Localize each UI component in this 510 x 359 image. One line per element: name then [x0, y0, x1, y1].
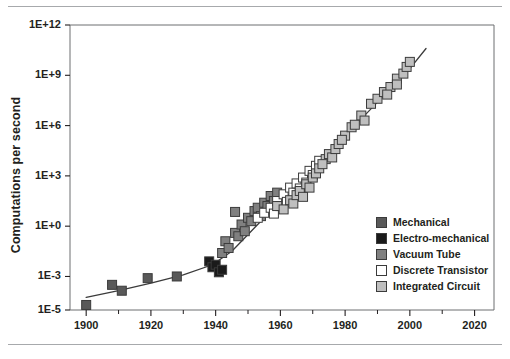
x-tick-label: 1940 — [192, 319, 240, 331]
x-tick-label: 1960 — [256, 319, 304, 331]
data-point-marker — [318, 160, 327, 169]
data-point-marker — [240, 227, 249, 236]
data-point-marker — [328, 153, 337, 162]
x-tick-label: 2000 — [386, 319, 434, 331]
y-tick-label: 1E+6 — [7, 119, 61, 131]
data-point-marker — [218, 265, 227, 274]
data-point-marker — [383, 90, 392, 99]
legend-item-label: Discrete Transistor — [393, 264, 488, 276]
chart-legend: MechanicalElectro-mechanicalVacuum TubeD… — [376, 214, 489, 294]
data-point-marker — [392, 80, 401, 89]
data-point-marker — [305, 183, 314, 192]
data-point-marker — [337, 135, 346, 144]
series-electro-mechanical — [205, 257, 227, 277]
series-vacuum-tube — [218, 188, 282, 257]
data-point-marker — [360, 116, 369, 125]
data-markers — [82, 57, 415, 309]
y-tick-label: 1E+12 — [7, 18, 61, 30]
data-point-marker — [279, 205, 288, 214]
data-point-marker — [172, 272, 181, 281]
legend-item-label: Vacuum Tube — [393, 248, 461, 260]
data-point-marker — [143, 274, 152, 283]
series-mechanical — [82, 272, 182, 310]
x-tick-label: 2020 — [451, 319, 499, 331]
series-integrated-circuit — [273, 57, 415, 214]
data-point-marker — [82, 300, 91, 309]
legend-item[interactable]: Electro-mechanical — [376, 230, 489, 246]
chart-figure: Computations per second 1E+121E+91E+61E+… — [0, 0, 510, 359]
y-tick-label: 1E+3 — [7, 169, 61, 181]
data-point-marker — [231, 207, 240, 216]
y-tick-label: 1E+9 — [7, 68, 61, 80]
data-point-marker — [350, 120, 359, 129]
legend-item-label: Mechanical — [393, 216, 450, 228]
x-tick-label: 1900 — [62, 319, 110, 331]
legend-item-label: Integrated Circuit — [393, 280, 480, 292]
legend-item[interactable]: Vacuum Tube — [376, 246, 489, 262]
data-point-marker — [108, 280, 117, 289]
data-point-marker — [117, 286, 126, 295]
legend-swatch-icon — [376, 281, 387, 292]
y-tick-label: 1E-5 — [7, 303, 61, 315]
legend-swatch-icon — [376, 249, 387, 260]
legend-swatch-icon — [376, 217, 387, 228]
legend-item[interactable]: Mechanical — [376, 214, 489, 230]
legend-item[interactable]: Discrete Transistor — [376, 262, 489, 278]
legend-swatch-icon — [376, 233, 387, 244]
y-tick-label: 1E+0 — [7, 219, 61, 231]
data-point-marker — [299, 192, 308, 201]
data-point-marker — [289, 199, 298, 208]
data-point-marker — [405, 57, 414, 66]
legend-swatch-icon — [376, 265, 387, 276]
data-point-marker — [224, 243, 233, 252]
x-tick-label: 1980 — [321, 319, 369, 331]
legend-item[interactable]: Integrated Circuit — [376, 278, 489, 294]
y-tick-label: 1E-3 — [7, 269, 61, 281]
legend-item-label: Electro-mechanical — [393, 232, 489, 244]
plot-area — [0, 0, 510, 359]
x-tick-label: 1920 — [127, 319, 175, 331]
